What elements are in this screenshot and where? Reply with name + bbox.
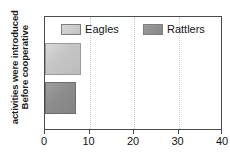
- x-tick-label: 30: [171, 135, 183, 147]
- legend-swatch-eagles: [61, 24, 81, 35]
- x-axis: 010203040: [44, 130, 222, 154]
- legend-item-rattlers[interactable]: Rattlers: [143, 23, 205, 35]
- x-tick-mark: [221, 130, 222, 134]
- legend-label-eagles: Eagles: [85, 23, 119, 35]
- x-tick-label: 40: [216, 135, 228, 147]
- x-tick-mark: [89, 130, 90, 134]
- bar-eagles: [45, 43, 81, 75]
- x-tick-label: 20: [127, 135, 139, 147]
- x-tick-label: 10: [82, 135, 94, 147]
- x-tick-mark: [44, 130, 45, 134]
- bar-chart: Before cooperative activities were intro…: [0, 0, 230, 156]
- legend-item-eagles[interactable]: Eagles: [61, 23, 119, 35]
- bar-rattlers: [45, 82, 76, 114]
- y-axis-label-line-1: Before cooperative: [20, 25, 30, 109]
- y-axis-label: Before cooperative activities were intro…: [0, 0, 40, 134]
- x-tick-mark: [178, 130, 179, 134]
- legend-label-rattlers: Rattlers: [167, 23, 205, 35]
- legend: Eagles Rattlers: [49, 20, 217, 38]
- y-axis-label-rotated: Before cooperative activities were intro…: [10, 10, 31, 124]
- plot-area: Eagles Rattlers: [44, 16, 222, 130]
- legend-swatch-rattlers: [143, 24, 163, 35]
- x-tick-mark: [133, 130, 134, 134]
- x-tick-label: 0: [41, 135, 47, 147]
